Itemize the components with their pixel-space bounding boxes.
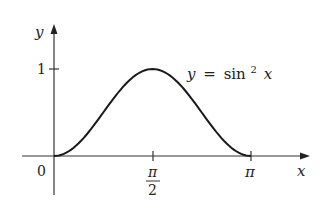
eq-exp: 2 (251, 64, 257, 75)
sin-squared-curve (54, 69, 251, 156)
eq-equals: = (203, 65, 216, 83)
x-tick-label-pi: π (244, 163, 256, 181)
y-axis-arrow-icon (51, 24, 58, 34)
eq-lhs: y (186, 65, 196, 83)
y-axis-label: y (34, 23, 44, 41)
x-axis-label: x (297, 162, 306, 180)
y-tick-label-1: 1 (37, 61, 46, 77)
x-tick-label-0: 0 (37, 163, 46, 179)
x-tick-label-pi-half-num: π (147, 164, 158, 180)
x-axis-arrow-icon (300, 153, 310, 160)
equation-label: y = sin 2 x (186, 59, 273, 83)
eq-var: x (264, 65, 273, 83)
eq-fn: sin (224, 65, 246, 83)
sin-squared-plot: y 1 0 π 2 π x y = sin 2 x (0, 0, 322, 216)
x-tick-label-pi-half-den: 2 (148, 182, 157, 198)
